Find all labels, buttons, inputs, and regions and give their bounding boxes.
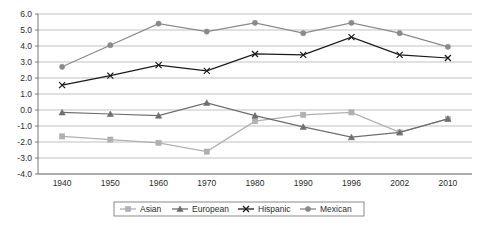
- data-point-square-marker: [301, 112, 306, 117]
- data-point-square-marker: [204, 149, 209, 154]
- y-tick-label: -1.0: [17, 121, 32, 131]
- y-tick-label: -2.0: [17, 137, 32, 147]
- data-point-x-marker: [348, 34, 354, 40]
- x-tick-labels: 194019501960197019801990199620022010: [53, 178, 458, 188]
- y-tick-label: 0.0: [20, 105, 32, 115]
- data-point-square-marker: [349, 110, 354, 115]
- x-tick-label: 1970: [197, 178, 216, 188]
- y-tick-label: 3.0: [20, 57, 32, 67]
- data-point-circle-marker: [252, 20, 257, 25]
- y-tick-label: 5.0: [20, 25, 32, 35]
- x-tick-label: 2002: [390, 178, 409, 188]
- y-tick-label: 1.0: [20, 89, 32, 99]
- gridlines: [38, 14, 472, 174]
- x-tick-label: 1990: [294, 178, 313, 188]
- data-series: [59, 20, 451, 154]
- chart-legend: AsianEuropeanHispanicMexican: [114, 202, 364, 216]
- data-point-circle-marker: [301, 31, 306, 36]
- x-tick-label: 1950: [101, 178, 120, 188]
- line-chart: 6.05.04.03.02.01.00.0-1.0-2.0-3.0-4.0 19…: [0, 0, 478, 225]
- y-tick-label: 4.0: [20, 41, 32, 51]
- data-point-square-marker: [108, 137, 113, 142]
- x-tick-label: 1980: [246, 178, 265, 188]
- data-point-circle-marker: [445, 44, 450, 49]
- data-point-circle-marker: [108, 43, 113, 48]
- y-tick-labels: 6.05.04.03.02.01.00.0-1.0-2.0-3.0-4.0: [17, 9, 32, 179]
- data-point-circle-marker: [60, 64, 65, 69]
- chart-canvas: 6.05.04.03.02.01.00.0-1.0-2.0-3.0-4.0 19…: [0, 0, 478, 225]
- data-point-circle-marker: [397, 31, 402, 36]
- data-point-square-marker: [156, 140, 161, 145]
- series-line-mexican: [62, 23, 448, 67]
- data-point-triangle-marker: [204, 100, 210, 106]
- data-point-square-marker: [60, 134, 65, 139]
- legend-label-asian: Asian: [140, 204, 162, 214]
- data-point-circle-marker: [156, 21, 161, 26]
- data-point-square-marker: [252, 119, 257, 124]
- y-axis: [35, 14, 38, 174]
- data-point-circle-marker: [305, 206, 310, 211]
- data-point-square-marker: [125, 206, 130, 211]
- x-tick-label: 2010: [438, 178, 457, 188]
- legend-label-european: European: [192, 204, 229, 214]
- y-tick-label: 2.0: [20, 73, 32, 83]
- data-point-circle-marker: [349, 20, 354, 25]
- legend-label-mexican: Mexican: [320, 204, 352, 214]
- x-tick-label: 1996: [342, 178, 361, 188]
- y-tick-label: -4.0: [17, 169, 32, 179]
- data-point-circle-marker: [204, 29, 209, 34]
- x-tick-label: 1960: [149, 178, 168, 188]
- legend-label-hispanic: Hispanic: [258, 204, 291, 214]
- x-tick-label: 1940: [53, 178, 72, 188]
- y-tick-label: 6.0: [20, 9, 32, 19]
- y-tick-label: -3.0: [17, 153, 32, 163]
